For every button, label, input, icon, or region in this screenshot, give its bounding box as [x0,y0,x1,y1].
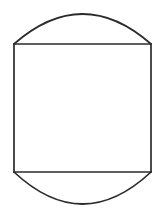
figure-canvas [0,0,166,218]
canvas-background [0,0,166,218]
